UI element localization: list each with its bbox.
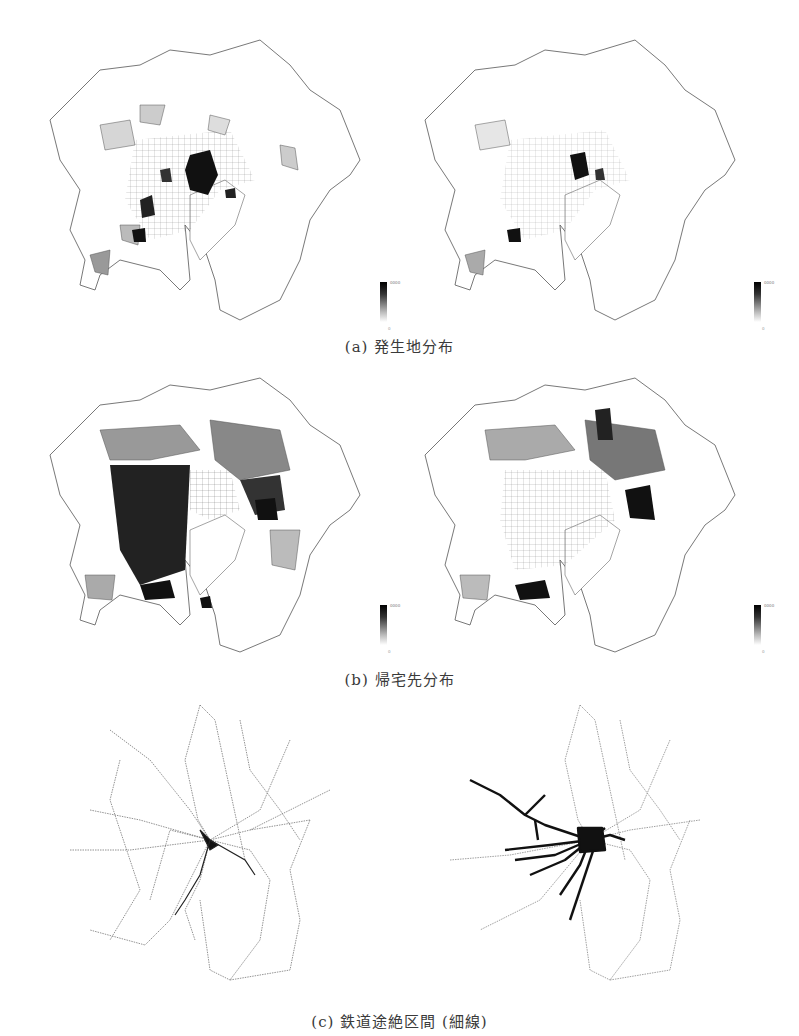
map-a-right (415, 30, 755, 330)
legend-gradient (754, 605, 761, 645)
caption-b: (b) 帰宅先分布 (0, 668, 799, 689)
disrupted-lines-overlay (430, 700, 750, 1000)
kanto-choropleth-map (415, 370, 755, 660)
legend-a-right: 0000 0 (752, 282, 782, 332)
caption-a: (a) 発生地分布 (0, 335, 799, 356)
kanto-choropleth-map (40, 30, 380, 330)
legend-max: 0000 (390, 603, 400, 608)
legend-min: 0 (388, 649, 391, 654)
kanto-choropleth-map (40, 370, 380, 660)
legend-a-left: 0000 0 (378, 282, 408, 332)
legend-gradient (754, 282, 761, 322)
legend-max: 0000 (390, 280, 400, 285)
map-a-left (40, 30, 380, 330)
legend-max: 0000 (764, 280, 774, 285)
disrupted-lines-overlay (50, 700, 370, 1000)
legend-min: 0 (762, 326, 765, 331)
legend-b-right: 0000 0 (752, 605, 782, 655)
legend-gradient (380, 282, 387, 322)
legend-min: 0 (388, 326, 391, 331)
legend-max: 0000 (764, 603, 774, 608)
legend-b-left: 0000 0 (378, 605, 408, 655)
kanto-choropleth-map (415, 30, 755, 330)
legend-min: 0 (762, 649, 765, 654)
legend-gradient (380, 605, 387, 645)
map-c-right (430, 700, 750, 1000)
caption-c: (c) 鉄道途絶区間 (細線) (0, 1010, 799, 1031)
map-b-left (40, 370, 380, 660)
map-c-left (50, 700, 370, 1000)
map-b-right (415, 370, 755, 660)
